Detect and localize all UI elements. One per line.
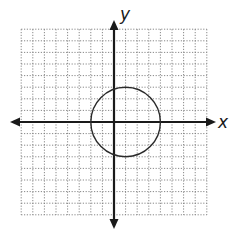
x-axis-arrow-right-icon	[206, 118, 216, 127]
x-axis-label: x	[217, 112, 229, 132]
y-axis-label: y	[119, 4, 131, 24]
y-axis-arrow-down-icon	[110, 219, 119, 229]
coordinate-plane: x y	[0, 0, 235, 233]
axes	[10, 20, 216, 229]
y-axis-arrow-up-icon	[110, 20, 119, 30]
x-axis-arrow-left-icon	[10, 118, 20, 127]
